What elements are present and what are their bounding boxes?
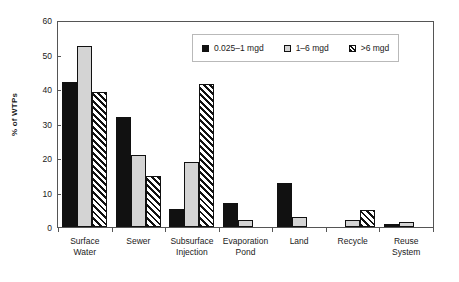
bar	[92, 92, 107, 227]
legend-swatch-icon	[202, 45, 209, 52]
y-tick-label: 60	[0, 16, 52, 26]
y-tick-label: 20	[0, 154, 52, 164]
legend-swatch-icon	[284, 45, 291, 52]
x-tick-label-line: Pond	[219, 247, 273, 258]
x-tick-label-line: Surface	[58, 236, 112, 247]
x-tick-label-line: Recycle	[326, 236, 380, 247]
legend-item: 1–6 mgd	[284, 43, 329, 53]
bar	[184, 162, 199, 227]
bar	[292, 217, 307, 227]
bar	[384, 224, 399, 227]
x-tick-label-line: Land	[272, 236, 326, 247]
x-axis-labels: SurfaceWaterSewerSubsurfaceInjectionEvap…	[58, 236, 433, 258]
x-tick-mark	[219, 228, 220, 232]
y-tick-label: 30	[0, 120, 52, 130]
bar	[238, 220, 253, 227]
chart-legend: 0.025–1 mgd1–6 mgd>6 mgd	[192, 34, 399, 62]
legend-swatch-icon	[349, 45, 356, 52]
x-tick-label-line: System	[379, 247, 433, 258]
x-tick-mark	[433, 228, 434, 232]
bar	[146, 176, 161, 227]
bar	[223, 203, 238, 227]
x-tick-mark	[112, 228, 113, 232]
y-tick-label: 0	[0, 223, 52, 233]
y-tick-label: 50	[0, 51, 52, 61]
x-tick-label: Land	[272, 236, 326, 258]
y-tick-label: 40	[0, 85, 52, 95]
bar	[199, 84, 214, 228]
bar	[77, 46, 92, 227]
legend-item: 0.025–1 mgd	[202, 43, 264, 53]
bar	[345, 220, 360, 227]
x-tick-label: Recycle	[326, 236, 380, 258]
legend-item: >6 mgd	[349, 43, 390, 53]
bar	[62, 82, 77, 227]
bar	[116, 117, 131, 227]
bar	[131, 155, 146, 227]
legend-label: 1–6 mgd	[296, 43, 329, 53]
x-tick-label-line: Sewer	[112, 236, 166, 247]
x-tick-label-line: Reuse	[379, 236, 433, 247]
x-tick-label: Sewer	[112, 236, 166, 258]
x-tick-mark	[272, 228, 273, 232]
x-tick-label-line: Injection	[165, 247, 219, 258]
x-tick-label: SurfaceWater	[58, 236, 112, 258]
x-tick-mark	[379, 228, 380, 232]
legend-label: 0.025–1 mgd	[214, 43, 264, 53]
bar-group	[112, 22, 166, 227]
bar	[169, 209, 184, 227]
legend-label: >6 mgd	[361, 43, 390, 53]
bar	[277, 183, 292, 227]
x-tick-label-line: Water	[58, 247, 112, 258]
x-tick-mark	[326, 228, 327, 232]
x-tick-mark	[58, 228, 59, 232]
x-tick-label: SubsurfaceInjection	[165, 236, 219, 258]
x-tick-label: EvaporationPond	[219, 236, 273, 258]
x-tick-label-line: Subsurface	[165, 236, 219, 247]
x-tick-label-line: Evaporation	[219, 236, 273, 247]
y-tick-label: 10	[0, 189, 52, 199]
bar	[399, 222, 414, 227]
bar-group	[58, 22, 112, 227]
x-tick-mark	[165, 228, 166, 232]
bar	[360, 210, 375, 227]
x-tick-label: ReuseSystem	[379, 236, 433, 258]
bar-chart: % of WTPs 0102030405060 SurfaceWaterSewe…	[0, 0, 459, 282]
